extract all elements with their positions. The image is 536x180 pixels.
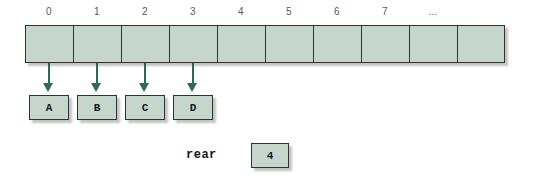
array-cell[interactable] — [25, 25, 73, 63]
array-cell[interactable] — [265, 25, 313, 63]
arrow-down-icon — [186, 63, 199, 93]
rear-variable-label: rear — [186, 148, 217, 162]
arrow-head — [91, 83, 101, 92]
array-index-label-2: 2 — [121, 6, 169, 17]
arrow-down-icon — [138, 63, 151, 93]
queue-array-diagram: 0 1 2 3 4 5 6 7 ... A B C D rear 4 — [0, 0, 536, 180]
array-index-label-5: 5 — [265, 6, 313, 17]
array-cell[interactable] — [313, 25, 361, 63]
array-index-label-7: 7 — [361, 6, 409, 17]
array-index-label-ellipsis: ... — [409, 6, 457, 17]
array-cell[interactable] — [361, 25, 409, 63]
array-index-label-6: 6 — [313, 6, 361, 17]
array-index-label-0: 0 — [25, 6, 73, 17]
array-cell[interactable] — [121, 25, 169, 63]
data-box-c[interactable]: C — [125, 95, 165, 120]
arrow-head — [139, 83, 149, 92]
arrow-down-icon — [90, 63, 103, 93]
array-index-label-3: 3 — [169, 6, 217, 17]
data-box-d[interactable]: D — [173, 95, 213, 120]
arrow-shaft — [96, 63, 98, 85]
array-cell[interactable] — [217, 25, 265, 63]
array-cell[interactable] — [169, 25, 217, 63]
arrow-shaft — [192, 63, 194, 85]
arrow-shaft — [48, 63, 50, 85]
arrow-down-icon — [42, 63, 55, 93]
rear-value-box[interactable]: 4 — [251, 143, 289, 168]
arrow-head — [43, 83, 53, 92]
array-index-label-4: 4 — [217, 6, 265, 17]
data-box-a[interactable]: A — [29, 95, 69, 120]
array-cell[interactable] — [73, 25, 121, 63]
arrow-head — [187, 83, 197, 92]
arrow-shaft — [144, 63, 146, 85]
array-strip — [25, 25, 505, 63]
data-box-b[interactable]: B — [77, 95, 117, 120]
array-cell[interactable] — [409, 25, 457, 63]
array-index-label-1: 1 — [73, 6, 121, 17]
array-cell[interactable] — [457, 25, 505, 63]
